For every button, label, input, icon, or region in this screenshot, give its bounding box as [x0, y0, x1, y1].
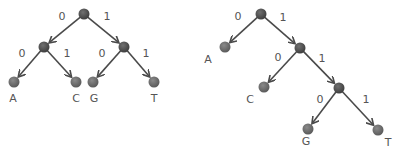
leaf-node [259, 82, 270, 93]
leaf-symbol-label: C [246, 93, 254, 106]
leaf-symbol-label: C [72, 92, 80, 105]
skewed-tree: 010101ACGT [204, 9, 391, 149]
edge-bit-label: 1 [363, 93, 370, 106]
edge-arrow [86, 15, 119, 42]
internal-node [256, 9, 267, 20]
edge-bit-label: 1 [280, 11, 287, 24]
edge-bit-label: 1 [64, 47, 71, 60]
leaf-node [9, 77, 20, 88]
leaf-symbol-label: A [9, 92, 17, 105]
edge-bit-label: 0 [19, 47, 26, 60]
edge-bit-label: 0 [59, 10, 66, 23]
internal-node [295, 43, 306, 54]
internal-node [334, 83, 345, 94]
leaf-symbol-label: T [150, 92, 158, 105]
leaf-node [71, 77, 82, 88]
internal-node [79, 9, 90, 20]
internal-node [119, 42, 130, 53]
internal-node [39, 42, 50, 53]
edge-bit-label: 0 [235, 10, 242, 23]
leaf-node [303, 124, 314, 135]
edge-arrow [263, 15, 295, 43]
leaf-node [149, 77, 160, 88]
edge-bit-label: 1 [104, 10, 111, 23]
balanced-tree: 010101ACGT [9, 9, 160, 106]
leaf-symbol-label: G [90, 92, 99, 105]
edge-bit-label: 0 [317, 93, 324, 106]
leaf-symbol-label: G [302, 135, 311, 148]
edge-bit-label: 0 [275, 51, 282, 64]
prefix-code-trees-diagram: 010101ACGT 010101ACGT [0, 0, 397, 148]
leaf-node [88, 77, 99, 88]
edge-arrow [50, 15, 83, 42]
leaf-node [373, 125, 384, 136]
leaf-symbol-label: T [384, 136, 392, 148]
leaf-symbol-label: A [204, 53, 212, 66]
edge-bit-label: 0 [99, 47, 106, 60]
leaf-node [220, 42, 231, 53]
edge-bit-label: 1 [319, 52, 326, 65]
edge-bit-label: 1 [143, 47, 150, 60]
